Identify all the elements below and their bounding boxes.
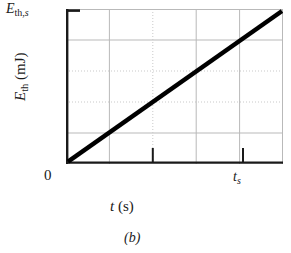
y-title-symbol: E [12, 92, 28, 101]
ts-subscript: s [237, 175, 241, 186]
x-axis-tick-label-ts: ts [233, 170, 241, 186]
plot-area [66, 9, 283, 164]
y-title-subscript: th [19, 84, 30, 92]
origin-label: 0 [44, 168, 52, 183]
plot-graphics [66, 9, 283, 164]
x-title-unit: (s) [114, 198, 134, 214]
data-line-thermal-energy [68, 11, 282, 162]
figure-caption: (b) [124, 230, 140, 246]
y-max-symbol: E [6, 1, 15, 16]
x-axis-title: t (s) [110, 199, 134, 214]
y-axis-title: Eth (mJ) [13, 17, 30, 137]
y-axis-max-tick-label: Eth,s [6, 2, 29, 18]
y-title-unit: (mJ) [12, 52, 28, 83]
figure-container: Eth,s Eth (mJ) [0, 0, 291, 253]
